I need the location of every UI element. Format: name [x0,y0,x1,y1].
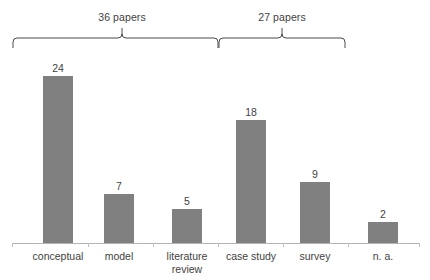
bar-case-study[interactable] [236,120,266,243]
bar-chart-figure: 36 papers 27 papers 24 conceptual 7 mode… [0,0,430,280]
category-label-na: n. a. [343,250,423,263]
category-label-line1: literature [167,250,208,262]
bar-value-literature-review: 5 [157,195,217,207]
bar-survey[interactable] [300,182,330,243]
x-axis-tick [153,243,154,247]
bar-value-case-study: 18 [221,106,281,118]
x-axis-tick [12,243,13,247]
x-axis-tick [348,243,349,247]
bar-value-conceptual: 24 [28,62,88,74]
category-label-line2: review [172,263,202,275]
x-axis-tick [419,243,420,247]
x-axis-tick [218,243,219,247]
plot-area: 24 conceptual 7 model 5 literaturereview… [0,0,430,280]
bar-na[interactable] [368,222,398,243]
x-axis-tick [283,243,284,247]
x-axis-line [12,243,420,244]
bar-value-model: 7 [89,180,149,192]
bar-value-survey: 9 [285,168,345,180]
bar-conceptual[interactable] [43,76,73,243]
bar-literature-review[interactable] [172,209,202,243]
x-axis-tick [88,243,89,247]
bar-model[interactable] [104,194,134,243]
bar-value-na: 2 [353,208,413,220]
